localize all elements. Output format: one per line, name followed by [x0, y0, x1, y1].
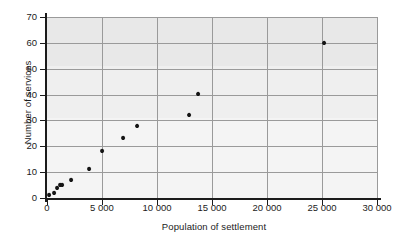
gridline-horizontal [47, 17, 377, 18]
y-tick-label: 40 [0, 90, 37, 100]
y-tick-label: 20 [0, 141, 37, 151]
panel-top-shade [47, 17, 377, 66]
data-point [321, 40, 327, 46]
x-tick-label: 30 000 [342, 203, 393, 213]
y-tick-label: 10 [0, 167, 37, 177]
gridline-vertical [212, 17, 213, 198]
y-tick-label: 30 [0, 115, 37, 125]
y-tick-mark [40, 43, 45, 44]
gridline-vertical [267, 17, 268, 198]
y-tick-label: 50 [0, 64, 37, 74]
y-tick-mark [40, 17, 45, 18]
data-point [86, 167, 92, 173]
y-tick-label: 0 [0, 193, 37, 203]
y-axis-spine [45, 13, 47, 202]
gridline-vertical [157, 17, 158, 198]
x-axis-title: Population of settlement [44, 221, 384, 232]
data-point [68, 177, 74, 183]
y-tick-mark [40, 120, 45, 121]
gridline-vertical [377, 17, 378, 198]
gridline-vertical [102, 17, 103, 198]
gridline-horizontal [47, 95, 377, 96]
gridline-horizontal [47, 43, 377, 44]
y-tick-mark [40, 69, 45, 70]
data-point [134, 123, 140, 129]
y-tick-mark [40, 95, 45, 96]
y-tick-mark [40, 198, 45, 199]
data-point [120, 136, 126, 142]
panel-mid-shade [47, 66, 377, 118]
y-tick-label: 70 [0, 12, 37, 22]
data-point [99, 148, 105, 154]
gridline-horizontal [47, 120, 377, 121]
data-point [195, 92, 201, 98]
gridline-horizontal [47, 69, 377, 70]
gridline-horizontal [47, 146, 377, 147]
scatter-chart-figure: Number of services 010203040506070 05 00… [0, 0, 393, 241]
y-tick-label: 60 [0, 38, 37, 48]
y-tick-mark [40, 172, 45, 173]
y-tick-mark [40, 146, 45, 147]
plot-area [47, 17, 377, 198]
gridline-horizontal [47, 172, 377, 173]
data-point [186, 112, 192, 118]
x-axis-spine [45, 198, 381, 200]
